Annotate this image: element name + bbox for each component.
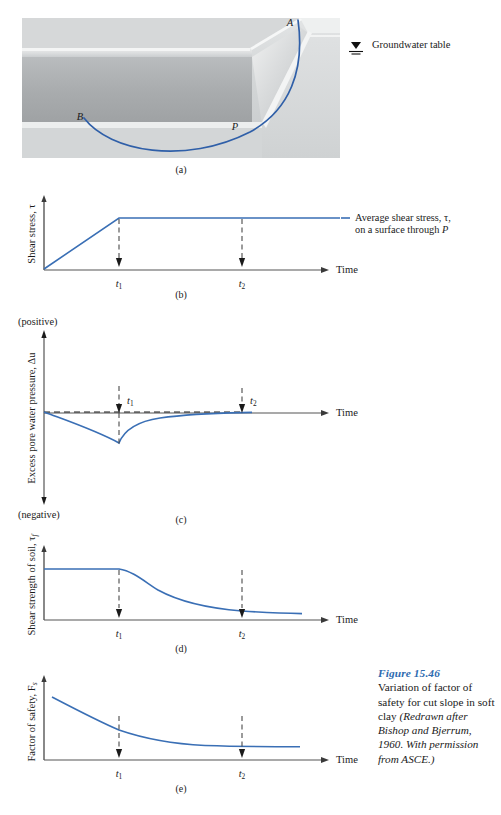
panel-e-t1-arrow (116, 749, 122, 758)
panel-b-shear-stress (41, 195, 350, 273)
panel-b-y-label: Shear stress, τ (26, 204, 37, 263)
panel-c-pore-pressure (41, 330, 329, 505)
panel-e-tick-t1: t1 (116, 768, 123, 781)
panel-b-x-arrow (321, 267, 329, 273)
panel-a-cut-slope (22, 18, 340, 158)
panel-e-x-label: Time (336, 754, 358, 765)
panel-c-y-arrow-up (41, 330, 46, 338)
figure-caption-text: Variation of factor of safety for cut sl… (378, 680, 496, 765)
panel-c-x-arrow (321, 410, 329, 416)
panel-tag-c: (c) (175, 514, 186, 526)
panel-e-t2-arrow (239, 749, 245, 758)
panel-d-curve (44, 569, 302, 614)
panel-c-negative-label: (negative) (18, 509, 60, 521)
panel-d-shear-strength (41, 545, 329, 623)
panel-c-y-label: Excess pore water pressure, Δu (26, 352, 37, 484)
panel-tag-d: (d) (175, 643, 187, 655)
panel-b-y-arrow (41, 195, 46, 202)
panel-c-y-arrow-down (41, 497, 46, 505)
excavation-floor (22, 128, 262, 158)
panel-d-x-label: Time (336, 614, 358, 625)
panel-d-t2-arrow (239, 609, 245, 618)
water-table-icon (349, 42, 363, 54)
toe-highlight (22, 122, 262, 128)
panel-e-y-arrow (41, 675, 46, 682)
figure-caption: Figure 15.46Variation of factor of safet… (378, 666, 496, 766)
panel-d-x-arrow (321, 617, 329, 623)
panel-e-x-arrow (321, 757, 329, 763)
panel-c-tick-t2: t2 (250, 395, 257, 408)
panel-b-t2-arrow (239, 258, 245, 267)
figure-number: Figure 15.46 (378, 666, 496, 680)
panel-b-annotation-line2: on a surface through P (355, 224, 449, 235)
bench-highlight (22, 48, 250, 51)
label-point-p: P (231, 121, 239, 132)
panel-tag-b: (b) (175, 289, 187, 301)
panel-e-tick-t2: t2 (239, 768, 246, 781)
panel-d-t1-arrow (116, 609, 122, 618)
panel-tag-a: (a) (175, 164, 186, 176)
groundwater-table-label: Groundwater table (372, 39, 451, 50)
cut-wall-left (22, 57, 252, 125)
panel-d-tick-t1: t1 (116, 628, 123, 641)
panel-tag-e: (e) (175, 783, 186, 795)
panel-b-tick-t2: t2 (239, 278, 246, 291)
panel-b-annotation-line1: Average shear stress, τ, (355, 212, 451, 223)
panel-c-x-label: Time (336, 407, 358, 418)
panel-d-y-label: Shear strength of soil, τf (26, 534, 39, 636)
panel-d-y-arrow (41, 545, 46, 552)
label-point-a: A (286, 17, 294, 28)
panel-b-tick-t1: t1 (116, 278, 123, 291)
figure-15-46: A B P Groundwater table (a) Shear stress… (0, 0, 501, 815)
panel-e-factor-of-safety (41, 675, 329, 763)
panel-b-curve (44, 218, 340, 269)
panel-b-t1-arrow (116, 258, 122, 267)
panel-e-y-label: Factor of safety, Fs (26, 682, 39, 761)
panel-d-tick-t2: t2 (239, 628, 246, 641)
label-point-b: B (77, 111, 84, 122)
panel-b-x-label: Time (336, 264, 358, 275)
panel-c-curve (44, 412, 252, 443)
panel-e-curve (52, 697, 300, 747)
panel-c-positive-label: (positive) (18, 316, 57, 328)
panel-c-tick-t1: t1 (127, 395, 134, 408)
